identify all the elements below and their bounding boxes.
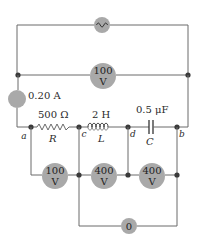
node-b-label: b <box>179 129 185 139</box>
voltmeter-total-unit: V <box>98 76 107 87</box>
voltmeter-lc: 0 <box>121 218 137 234</box>
series-components: 500 Ω R 2 H L 0.5 μF C a c d b <box>21 104 185 147</box>
voltmeter-resistor: 100 V <box>42 163 68 189</box>
total-voltmeter-branch: 100 V <box>15 63 190 89</box>
node-d-label: d <box>130 129 136 139</box>
capacitor-value: 0.5 μF <box>136 104 169 115</box>
voltmeter-resistor-value: 100 <box>45 165 64 176</box>
resistor: 500 Ω R <box>31 109 79 144</box>
voltmeter-inductor-unit: V <box>99 176 108 187</box>
lc-voltmeter-branch: 0 <box>79 218 177 234</box>
ammeter-reading: 0.20 A <box>28 90 61 101</box>
voltmeter-inductor: 400 V <box>91 163 117 189</box>
junction-dot <box>174 172 179 177</box>
voltmeter-capacitor: 400 V <box>139 163 165 189</box>
rlc-circuit-diagram: 100 V 0.20 A 500 Ω R 2 H L <box>0 0 199 246</box>
node-c-label: c <box>81 129 86 139</box>
voltmeter-total: 100 V <box>90 63 116 89</box>
voltmeter-capacitor-unit: V <box>147 176 156 187</box>
resistor-value: 500 Ω <box>38 109 69 120</box>
node-a-label: a <box>21 131 26 141</box>
ac-source-icon <box>94 17 110 33</box>
capacitor-symbol: C <box>146 136 154 147</box>
voltmeter-resistor-unit: V <box>50 176 59 187</box>
ammeter-icon <box>8 90 26 108</box>
voltmeter-lc-value: 0 <box>126 221 132 232</box>
voltmeter-total-value: 100 <box>93 65 112 76</box>
capacitor: 0.5 μF C <box>128 104 177 147</box>
junction-dot <box>125 172 130 177</box>
voltmeter-capacitor-value: 400 <box>142 165 161 176</box>
resistor-symbol: R <box>48 133 57 144</box>
junction-dot <box>76 172 81 177</box>
inductor-value: 2 H <box>92 109 111 120</box>
voltmeter-inductor-value: 400 <box>94 165 113 176</box>
inductor-symbol: L <box>97 133 105 144</box>
